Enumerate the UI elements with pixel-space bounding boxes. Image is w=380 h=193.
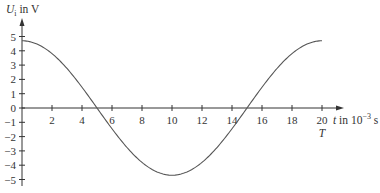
y-tick-label: 4 <box>11 45 17 57</box>
x-tick-label: 4 <box>79 114 85 126</box>
x-tick-label: 20 <box>317 114 329 126</box>
x-axis-arrow-icon <box>336 106 344 111</box>
y-tick-label: −3 <box>4 145 16 157</box>
x-tick-label: 8 <box>139 114 145 126</box>
y-tick-label: −1 <box>4 116 16 128</box>
x-tick-label: 12 <box>197 114 208 126</box>
y-axis-arrow-icon <box>20 18 25 26</box>
y-tick-label: 0 <box>11 102 17 114</box>
x-axis-title: t in 10−3 s <box>333 112 379 126</box>
axes <box>20 18 345 186</box>
x-tick-label: 18 <box>287 114 299 126</box>
period-label: T <box>319 127 327 139</box>
x-tick-label: 14 <box>227 114 239 126</box>
x-tick-label: 6 <box>109 114 115 126</box>
y-tick-label: 2 <box>11 73 17 85</box>
y-tick-label: −4 <box>4 159 16 171</box>
y-tick-label: −5 <box>4 174 16 186</box>
chart: 543210−1−2−3−4−52468101214161820 Ui in V… <box>0 0 380 193</box>
x-tick-label: 2 <box>49 114 55 126</box>
y-tick-label: 5 <box>11 31 17 43</box>
y-tick-label: 1 <box>11 88 17 100</box>
x-tick-label: 16 <box>257 114 269 126</box>
y-axis-title: Ui in V <box>6 3 40 18</box>
y-tick-label: 3 <box>11 59 17 71</box>
x-tick-label: 10 <box>167 114 179 126</box>
y-tick-label: −2 <box>4 131 16 143</box>
